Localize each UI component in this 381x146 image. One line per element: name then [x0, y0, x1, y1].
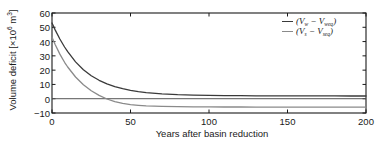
series-line-1 — [52, 37, 366, 107]
legend-label-vs: (Vs − Vseq) — [296, 26, 333, 38]
legend-swatch-vs — [282, 31, 293, 32]
chart-figure: Volume deficit [×106 m3] −10010203040506… — [0, 0, 381, 146]
chart-legend: (Vw − Vweq) (Vs − Vseq) — [282, 16, 336, 37]
legend-item-vs: (Vs − Vseq) — [282, 27, 336, 38]
legend-item-vw: (Vw − Vweq) — [282, 16, 336, 27]
legend-swatch-vw — [282, 21, 293, 22]
x-axis-label: Years after basin reduction — [54, 128, 370, 139]
